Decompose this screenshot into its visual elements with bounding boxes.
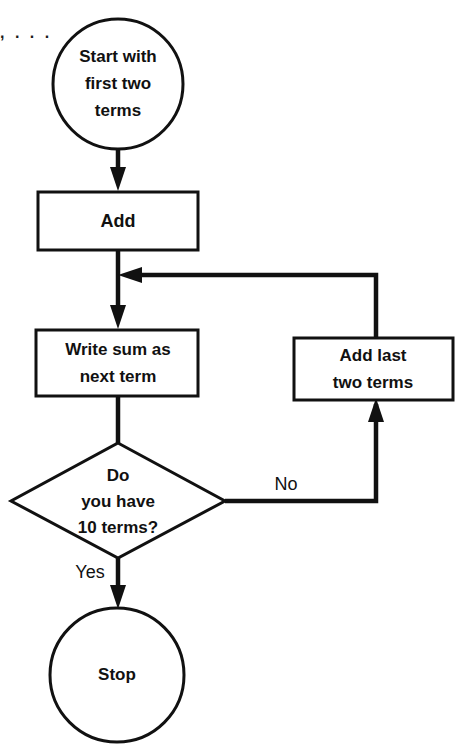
start-label-line3: terms <box>95 101 141 120</box>
stop-label: Stop <box>98 665 136 684</box>
add-last-two-label-line2: two terms <box>333 373 413 392</box>
node-start[interactable]: Start with first two terms <box>53 19 183 149</box>
flowchart-canvas: Start with first two terms Add Write sum… <box>0 0 463 750</box>
add-label: Add <box>101 211 136 231</box>
start-label-line2: first two <box>85 74 151 93</box>
decision-label-line1: Do <box>107 466 130 485</box>
start-label-line1: Start with <box>79 47 156 66</box>
arrow-head-icon <box>110 585 126 609</box>
arrow-head-icon <box>118 267 142 283</box>
flowchart-svg: Start with first two terms Add Write sum… <box>0 0 463 750</box>
decision-label-line2: you have <box>81 492 155 511</box>
decision-label-line3: 10 terms? <box>78 518 158 537</box>
write-sum-label-line1: Write sum as <box>65 340 171 359</box>
arrow-head-icon <box>110 167 126 191</box>
write-sum-label-line2: next term <box>80 367 157 386</box>
arrow-head-icon <box>110 305 126 329</box>
edge-start-to-add <box>110 149 126 191</box>
edge-label-yes: Yes <box>75 562 104 582</box>
node-stop[interactable]: Stop <box>50 608 184 742</box>
edge-label-no: No <box>274 474 297 494</box>
node-decision[interactable]: Do you have 10 terms? <box>11 443 225 558</box>
add-last-two-label-line1: Add last <box>339 346 406 365</box>
node-write-sum[interactable]: Write sum as next term <box>36 330 198 396</box>
edge-add-to-write-sum <box>110 250 126 329</box>
page-margin-fragment: , . . . <box>0 24 52 41</box>
edge-feedback-path <box>118 267 376 338</box>
arrow-head-icon <box>368 398 384 422</box>
edge-decision-no-path <box>225 398 384 501</box>
edge-decision-yes-path <box>110 558 126 609</box>
node-add[interactable]: Add <box>38 192 198 250</box>
node-add-last-two[interactable]: Add last two terms <box>294 338 453 400</box>
